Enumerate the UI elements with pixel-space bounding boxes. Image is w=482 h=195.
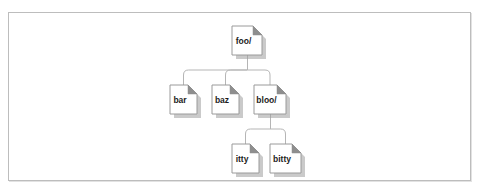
tree-node-label-bar: bar (173, 95, 187, 105)
tree-node-label-foo: foo/ (236, 36, 252, 46)
node-fold-corner (253, 26, 262, 35)
figure-root: foo/barbazbloo/ittybitty (0, 0, 482, 195)
tree-node-foo[interactable]: foo/ (232, 26, 266, 59)
tree-node-label-bitty: bitty (273, 154, 291, 164)
tree-node-bloo[interactable]: bloo/ (254, 85, 290, 118)
node-layer: foo/barbazbloo/ittybitty (170, 26, 305, 177)
node-fold-corner (188, 85, 197, 94)
node-fold-corner (292, 144, 301, 153)
node-fold-corner (230, 85, 239, 94)
node-fold-corner (277, 85, 286, 94)
tree-node-bar[interactable]: bar (170, 85, 201, 118)
tree-node-label-baz: baz (215, 95, 229, 105)
tree-node-label-bloo: bloo/ (256, 95, 277, 105)
tree-node-label-itty: itty (236, 154, 249, 164)
directory-tree-diagram: foo/barbazbloo/ittybitty (0, 0, 482, 195)
tree-node-bitty[interactable]: bitty (270, 144, 305, 177)
tree-node-baz[interactable]: baz (212, 85, 243, 118)
tree-node-itty[interactable]: itty (232, 144, 263, 177)
node-fold-corner (250, 144, 259, 153)
